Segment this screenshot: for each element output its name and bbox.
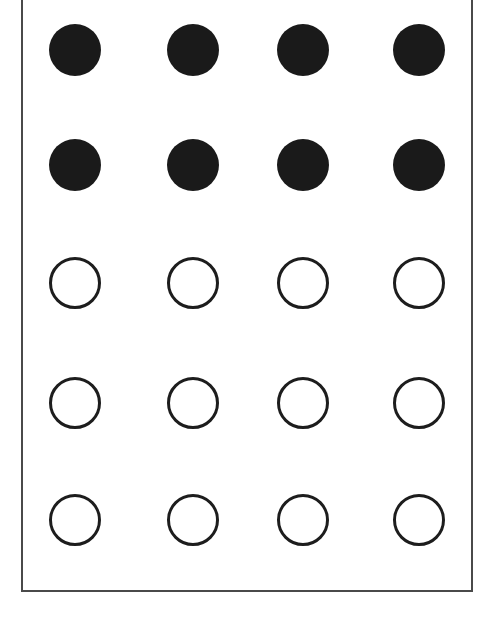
open-circle-marker: [393, 494, 445, 546]
filled-circle-marker: [167, 24, 219, 76]
open-circle-marker: [393, 257, 445, 309]
filled-circle-marker: [167, 139, 219, 191]
circle-grid: [0, 0, 495, 625]
filled-circle-marker: [49, 139, 101, 191]
filled-circle-marker: [49, 24, 101, 76]
open-circle-marker: [167, 257, 219, 309]
filled-circle-marker: [277, 139, 329, 191]
open-circle-marker: [167, 494, 219, 546]
open-circle-marker: [277, 377, 329, 429]
open-circle-marker: [49, 257, 101, 309]
filled-circle-marker: [393, 24, 445, 76]
filled-circle-marker: [393, 139, 445, 191]
open-circle-marker: [167, 377, 219, 429]
filled-circle-marker: [277, 24, 329, 76]
diagram-canvas: [0, 0, 495, 625]
open-circle-marker: [277, 494, 329, 546]
open-circle-marker: [49, 377, 101, 429]
open-circle-marker: [277, 257, 329, 309]
open-circle-marker: [393, 377, 445, 429]
open-circle-marker: [49, 494, 101, 546]
